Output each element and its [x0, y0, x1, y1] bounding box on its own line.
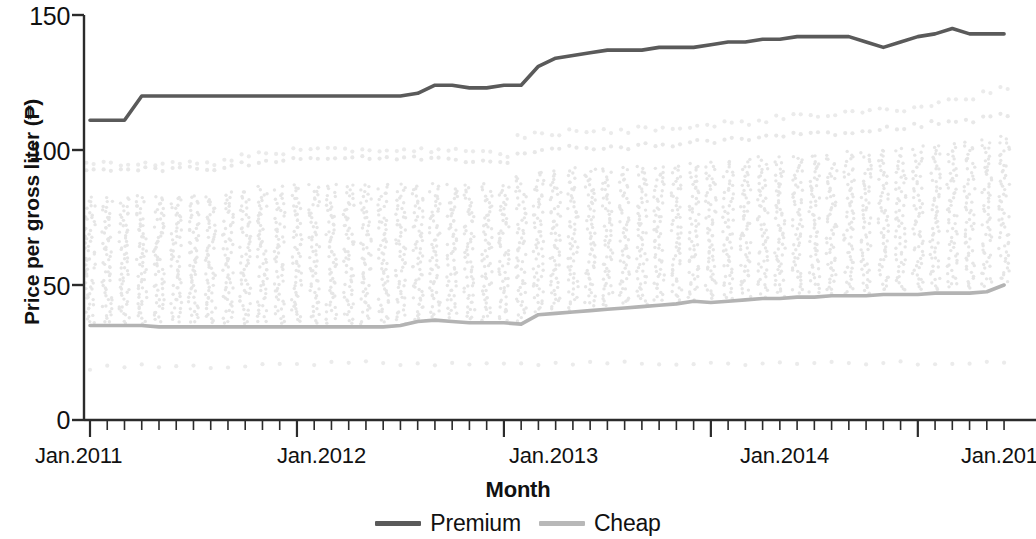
lower-outlier-dots-dot [312, 363, 316, 367]
observation-dot [504, 308, 507, 311]
observation-dot [759, 223, 762, 226]
secondary-upper-dots-dot [764, 133, 768, 137]
observation-dot [704, 284, 707, 287]
observation-dot [590, 291, 593, 294]
observation-dot [849, 255, 852, 258]
observation-dot [973, 187, 976, 190]
observation-dot [697, 222, 700, 225]
secondary-upper-dots-dot [239, 160, 243, 164]
secondary-upper-dots-dot [326, 157, 330, 161]
observation-dot [464, 196, 467, 199]
observation-dot [499, 287, 502, 290]
observation-dot [245, 206, 248, 209]
observation-dot [208, 213, 211, 216]
observation-dot [231, 286, 234, 289]
observation-dot [437, 185, 440, 188]
observation-dot [385, 315, 388, 318]
observation-dot [325, 321, 328, 324]
observation-dot [781, 232, 784, 235]
observation-dot [932, 232, 935, 235]
observation-dot [231, 271, 234, 274]
observation-dot [704, 216, 707, 219]
observation-dot [192, 296, 195, 299]
observation-dot [722, 175, 725, 178]
observation-dot [446, 254, 449, 257]
observation-dot [918, 230, 921, 233]
observation-dot [419, 296, 422, 299]
observation-dot [542, 179, 545, 182]
observation-dot [654, 184, 657, 187]
observation-dot [109, 302, 112, 305]
observation-dot [621, 249, 624, 252]
observation-dot [281, 263, 284, 266]
observation-dot [946, 153, 949, 156]
observation-dot [350, 321, 353, 324]
observation-dot [466, 284, 469, 287]
observation-dot [471, 265, 474, 268]
observation-dot [639, 254, 642, 257]
observation-dot [572, 276, 575, 279]
observation-dot [919, 206, 922, 209]
lower-outlier-dots-dot [571, 362, 575, 366]
observation-dot [947, 257, 950, 260]
observation-dot [746, 180, 749, 183]
observation-dot [575, 215, 578, 218]
observation-dot [395, 223, 398, 226]
observation-dot [573, 177, 576, 180]
observation-dot [101, 284, 104, 287]
observation-dot [587, 294, 590, 297]
observation-dot [882, 187, 885, 190]
secondary-upper-dots-dot [446, 157, 450, 161]
observation-dot [765, 250, 768, 253]
observation-dot [745, 227, 748, 230]
observation-dot [120, 305, 123, 308]
observation-dot [966, 167, 969, 170]
observation-dot [602, 303, 605, 306]
upper-outlier-dots-dot [998, 85, 1002, 89]
observation-dot [766, 211, 769, 214]
observation-dot [299, 255, 302, 258]
observation-dot [609, 284, 612, 287]
observation-dot [197, 222, 200, 225]
observation-dot [523, 271, 526, 274]
observation-dot [445, 183, 448, 186]
observation-dot [813, 154, 816, 157]
observation-dot [723, 210, 726, 213]
observation-dot [707, 174, 710, 177]
observation-dot [293, 287, 296, 290]
observation-dot [382, 216, 385, 219]
legend-item-premium[interactable]: Premium [375, 512, 521, 535]
observation-dot [367, 185, 370, 188]
observation-dot [865, 206, 868, 209]
observation-dot [501, 189, 504, 192]
observation-dot [638, 263, 641, 266]
observation-dot [911, 170, 914, 173]
observation-dot [290, 308, 293, 311]
observation-dot [256, 300, 259, 303]
observation-dot [950, 240, 953, 243]
observation-dot [281, 235, 284, 238]
observation-dot [207, 296, 210, 299]
observation-dot [1003, 225, 1006, 228]
observation-dot [275, 270, 278, 273]
observation-dot [429, 311, 432, 314]
upper-outlier-dots-dot [878, 106, 882, 110]
observation-dot [657, 235, 660, 238]
observation-dot [363, 183, 366, 186]
observation-dot [1007, 262, 1010, 265]
observation-dot [411, 192, 414, 195]
observation-dot [988, 141, 991, 144]
observation-dot [879, 194, 882, 197]
observation-dot [482, 292, 485, 295]
observation-dot [258, 204, 261, 207]
observation-dot [359, 201, 362, 204]
observation-dot [694, 185, 697, 188]
observation-dot [861, 209, 864, 212]
observation-dot [641, 294, 644, 297]
observation-dot [125, 244, 128, 247]
observation-dot [101, 205, 104, 208]
observation-dot [818, 275, 821, 278]
legend-item-cheap[interactable]: Cheap [539, 512, 661, 535]
observation-dot [814, 283, 817, 286]
observation-dot [954, 230, 957, 233]
